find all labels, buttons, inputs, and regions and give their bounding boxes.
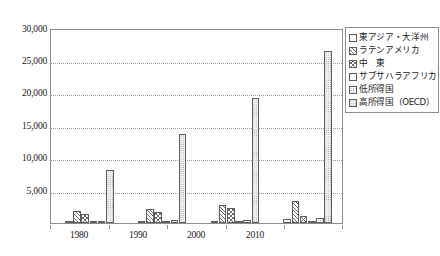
x-tick bbox=[226, 225, 227, 229]
bar bbox=[243, 220, 251, 223]
legend-item-label: 低所得国 bbox=[359, 85, 394, 94]
legend-swatch-icon bbox=[349, 34, 357, 42]
x-tick bbox=[50, 225, 51, 229]
legend-item-label: 高所得国（OECD） bbox=[359, 98, 434, 107]
legend: 東アジア・大洋州ラテンアメリカ中 東サブサハラアフリカ低所得国高所得国（OECD… bbox=[345, 27, 439, 113]
y-tick-label: 15,000 bbox=[22, 122, 47, 132]
x-tick-label: 2010 bbox=[246, 230, 264, 241]
legend-item[interactable]: 東アジア・大洋州 bbox=[349, 31, 436, 44]
legend-swatch-icon bbox=[349, 73, 357, 81]
x-tick bbox=[167, 225, 168, 229]
y-tick-label: 25,000 bbox=[22, 57, 47, 67]
bar bbox=[211, 221, 219, 223]
bar bbox=[171, 220, 179, 223]
bar bbox=[146, 209, 154, 223]
bar bbox=[283, 219, 291, 223]
chart-root: 30,000 25,000 20,000 15,000 10,000 5,000… bbox=[0, 0, 440, 256]
bar bbox=[316, 218, 324, 223]
bar bbox=[106, 170, 114, 223]
bar bbox=[219, 205, 227, 223]
legend-swatch-icon bbox=[349, 60, 357, 68]
bar bbox=[65, 221, 73, 223]
x-tick-label: 2000 bbox=[187, 230, 205, 241]
legend-item[interactable]: 高所得国（OECD） bbox=[349, 96, 436, 109]
bar bbox=[179, 134, 187, 223]
x-axis: 1980 1990 2000 2010 bbox=[50, 225, 343, 247]
legend-item-label: 東アジア・大洋州 bbox=[359, 33, 428, 42]
plot-area bbox=[50, 29, 343, 224]
y-axis: 30,000 25,000 20,000 15,000 10,000 5,000 bbox=[0, 0, 47, 256]
legend-item[interactable]: サブサハラアフリカ bbox=[349, 70, 436, 83]
bar bbox=[235, 221, 243, 223]
x-tick bbox=[109, 225, 110, 229]
legend-swatch-icon bbox=[349, 86, 357, 94]
legend-item[interactable]: ラテンアメリカ bbox=[349, 44, 436, 57]
y-tick-label: 5,000 bbox=[27, 187, 47, 197]
bar bbox=[138, 221, 146, 223]
legend-swatch-icon bbox=[349, 47, 357, 55]
bar bbox=[162, 221, 170, 223]
y-tick-label: 10,000 bbox=[22, 154, 47, 164]
legend-item-label: 中 東 bbox=[359, 59, 385, 68]
legend-item-label: サブサハラアフリカ bbox=[359, 72, 437, 81]
legend-swatch-icon bbox=[349, 99, 357, 107]
bar bbox=[98, 221, 106, 223]
bar bbox=[227, 208, 235, 223]
x-tick bbox=[342, 225, 343, 229]
bar bbox=[324, 51, 332, 223]
bar bbox=[81, 214, 89, 223]
bar bbox=[308, 221, 316, 223]
bar-group-container bbox=[51, 30, 342, 223]
legend-item[interactable]: 中 東 bbox=[349, 57, 436, 70]
bar bbox=[154, 212, 162, 223]
legend-item-label: ラテンアメリカ bbox=[359, 46, 420, 55]
x-tick-label: 1990 bbox=[129, 230, 147, 241]
bar bbox=[73, 211, 81, 223]
legend-item[interactable]: 低所得国 bbox=[349, 83, 436, 96]
bar bbox=[300, 216, 308, 223]
x-tick-label: 1980 bbox=[70, 230, 88, 241]
bar bbox=[252, 98, 260, 223]
bar bbox=[292, 201, 300, 223]
bar bbox=[90, 221, 98, 223]
y-tick-label: 30,000 bbox=[22, 25, 47, 35]
y-tick-label: 20,000 bbox=[22, 89, 47, 99]
x-tick bbox=[284, 225, 285, 229]
